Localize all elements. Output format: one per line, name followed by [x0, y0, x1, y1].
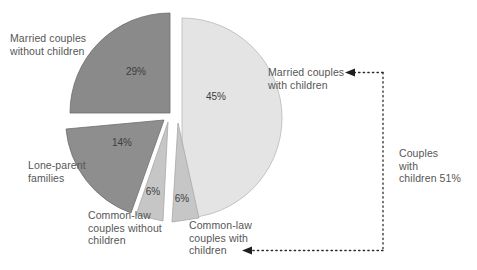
pie-slice-value-married-with-children: 45% — [206, 91, 226, 102]
pie-slice-value-married-without-children: 29% — [126, 66, 146, 77]
pie-slice-value-commonlaw-with-children: 6% — [175, 193, 190, 204]
pie-slice-married-without-children[interactable]: 29% — [70, 13, 170, 113]
pie-slice-value-lone-parent-families: 14% — [112, 137, 132, 148]
label-commonlaw-couples-without-children: Common-law couples without children — [88, 209, 162, 247]
label-lone-parent-families: Lone-parent families — [28, 159, 86, 184]
pie-chart-figure: 45% 6% 6% 14% 29% — [0, 0, 477, 270]
pie-slice-value-commonlaw-without-children: 6% — [146, 186, 161, 197]
label-married-couples-with-children: Married couples with children — [268, 66, 344, 91]
bottom-cropped-text-fragment: ________ __ — [8, 262, 128, 270]
label-couples-with-children-total: Couples with children 51% — [399, 147, 461, 185]
pie-slice-path-married-without-children — [70, 13, 170, 113]
callout-arrow-top — [345, 69, 355, 77]
label-commonlaw-couples-with-children: Common-law couples with children — [189, 219, 252, 257]
label-married-couples-without-children: Married couples without children — [10, 32, 86, 57]
pie-slice-married-with-children[interactable]: 45% — [182, 18, 282, 218]
pie-slice-path-married-with-children — [182, 18, 282, 218]
